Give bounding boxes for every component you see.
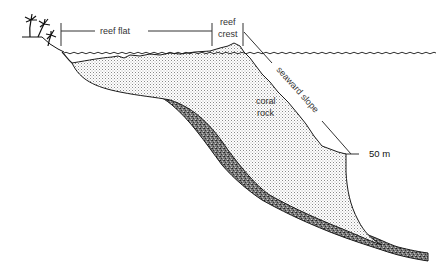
label-reef-crest-2: crest <box>218 29 238 39</box>
label-depth-50m: 50 m <box>369 148 390 159</box>
label-coral-rock-1: coral <box>256 96 276 106</box>
palm-trees-icon <box>22 14 64 52</box>
label-coral-rock-2: rock <box>257 108 275 118</box>
coral-rock-body <box>72 43 382 245</box>
label-reef-flat: reef flat <box>100 26 131 36</box>
reef-diagram: reef flat reef crest seaward slope coral… <box>0 0 441 270</box>
label-reef-crest-1: reef <box>220 17 236 27</box>
sea-surface <box>64 52 436 54</box>
